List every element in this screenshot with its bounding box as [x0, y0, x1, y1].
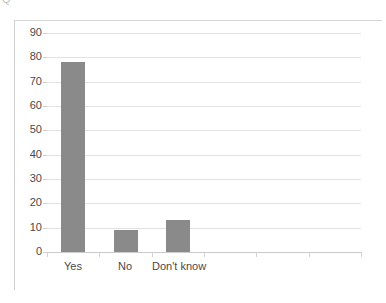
- y-axis-tick-label: 20: [16, 197, 42, 208]
- bar-don-t-know: [166, 220, 190, 252]
- bar-chart-figure: Q 0102030405060708090 YesNoDon't know: [0, 0, 386, 303]
- y-axis-tick: [43, 155, 47, 156]
- y-axis-tick: [43, 179, 47, 180]
- gridline: [47, 57, 361, 58]
- y-axis-tick-label: 70: [16, 76, 42, 87]
- gridline: [47, 179, 361, 180]
- y-axis-tick: [43, 130, 47, 131]
- gridline: [47, 155, 361, 156]
- y-axis-tick: [43, 228, 47, 229]
- x-axis-tick: [361, 252, 362, 257]
- y-axis-labels: 0102030405060708090: [12, 33, 42, 252]
- x-axis-tick: [152, 252, 153, 257]
- y-axis-tick-label: 40: [16, 149, 42, 160]
- x-axis-tick-label: Don't know: [152, 260, 204, 273]
- y-axis-tick-label: 60: [16, 100, 42, 111]
- y-axis-tick: [43, 106, 47, 107]
- y-axis-tick-label: 80: [16, 51, 42, 62]
- y-axis-tick: [43, 203, 47, 204]
- gridline: [47, 228, 361, 229]
- y-axis-tick: [43, 57, 47, 58]
- x-axis-tick-label: Yes: [47, 260, 99, 273]
- gridline: [47, 33, 361, 34]
- plot-area: [47, 33, 361, 252]
- y-axis-tick: [43, 33, 47, 34]
- gridline: [47, 106, 361, 107]
- y-axis-tick-label: 30: [16, 173, 42, 184]
- gridline: [47, 130, 361, 131]
- x-axis-tick: [309, 252, 310, 257]
- x-axis-tick-label: No: [99, 260, 151, 273]
- y-axis-tick: [43, 82, 47, 83]
- x-axis-tick: [47, 252, 48, 257]
- y-axis-tick-label: 10: [16, 222, 42, 233]
- x-axis-tick: [204, 252, 205, 257]
- y-axis-tick-label: 50: [16, 124, 42, 135]
- bar-yes: [61, 62, 85, 252]
- gridline: [47, 203, 361, 204]
- bar-no: [114, 230, 138, 252]
- x-axis-tick: [99, 252, 100, 257]
- x-axis-tick: [256, 252, 257, 257]
- y-axis-tick-label: 90: [16, 27, 42, 38]
- x-axis-ticks: [47, 252, 361, 258]
- gridline: [47, 82, 361, 83]
- clipped-question-title: Q: [2, 0, 202, 5]
- y-axis-tick-label: 0: [16, 246, 42, 257]
- x-axis-labels: YesNoDon't know: [47, 260, 361, 276]
